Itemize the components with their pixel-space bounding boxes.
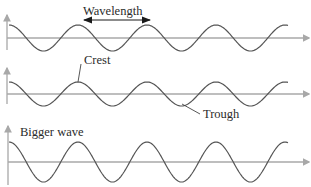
wavelength-label: Wavelength	[83, 4, 143, 18]
wave-diagram: Wavelength Crest Trough Bigger wave	[0, 0, 311, 187]
trough-leader-line	[182, 104, 200, 114]
crest-label: Crest	[84, 53, 111, 67]
wave-panel-1: Wavelength	[7, 4, 309, 51]
trough-label: Trough	[203, 107, 240, 121]
crest-leader-line	[78, 64, 81, 82]
wave-panel-3: Bigger wave	[8, 125, 309, 185]
bigger-wave-label: Bigger wave	[20, 125, 84, 139]
wave-panel-2: Crest Trough	[7, 53, 309, 121]
